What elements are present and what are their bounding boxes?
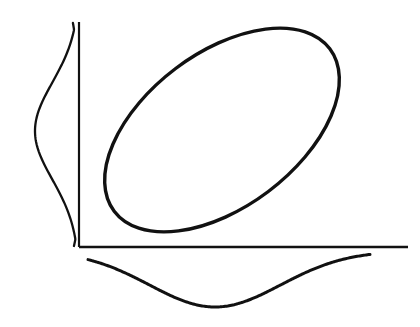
- figure-svg: [0, 0, 420, 327]
- figure-canvas: Bivariate normal distribution with conce…: [0, 0, 420, 327]
- figure-background: [0, 0, 420, 327]
